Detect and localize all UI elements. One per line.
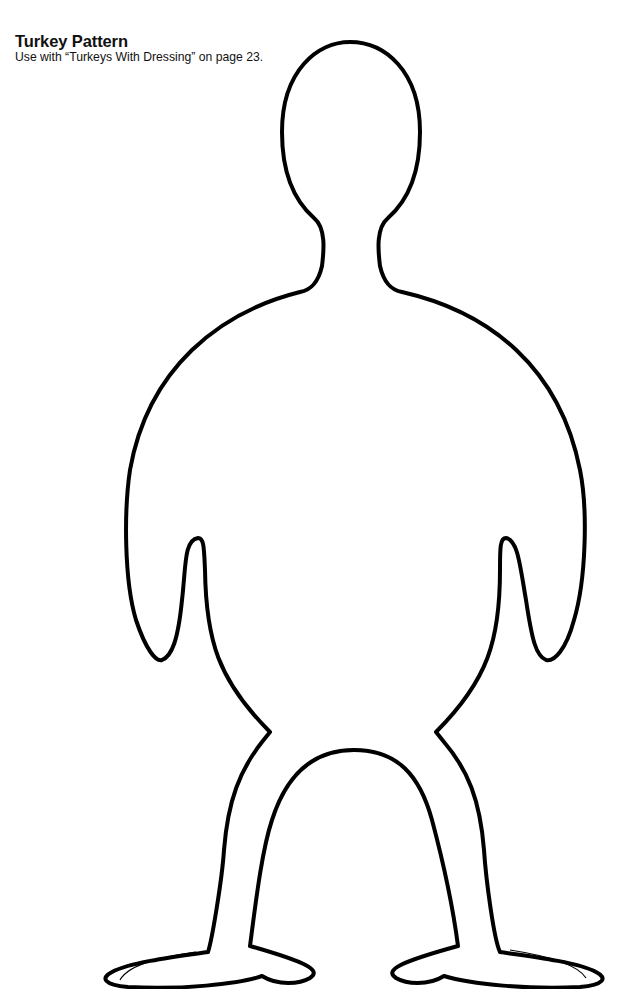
turkey-outline-drawing xyxy=(0,0,643,989)
turkey-body-outline xyxy=(105,42,602,988)
